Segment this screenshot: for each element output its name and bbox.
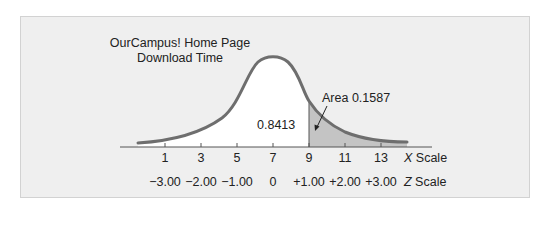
chart-title: OurCampus! Home Page Download Time (100, 36, 260, 65)
z-tick-label: +2.00 (325, 175, 365, 189)
z-tick-label: +1.00 (289, 175, 329, 189)
x-tick-label: 11 (325, 151, 365, 165)
z-scale-word: Scale (412, 175, 447, 189)
z-tick-label: −2.00 (181, 175, 221, 189)
x-tick-label: 13 (361, 151, 401, 165)
chart-title-line1: OurCampus! Home Page (100, 36, 260, 51)
x-tick-label: 9 (289, 151, 329, 165)
z-scale-name: Z Scale (404, 175, 446, 189)
left-area-value: 0.8413 (257, 118, 295, 132)
x-scale-name: X Scale (404, 151, 447, 165)
x-tick-label: 1 (145, 151, 185, 165)
chart-title-line2: Download Time (100, 51, 260, 66)
z-tick-label: +3.00 (361, 175, 401, 189)
right-area-label: Area 0.1587 (322, 91, 390, 105)
x-scale-word: Scale (412, 151, 447, 165)
z-tick-label: 0 (253, 175, 293, 189)
x-tick-label: 3 (181, 151, 221, 165)
x-tick-label: 5 (217, 151, 257, 165)
unshaded-area-region (138, 57, 309, 147)
x-tick-label: 7 (253, 151, 293, 165)
z-tick-label: −3.00 (145, 175, 185, 189)
z-scale-symbol: Z (404, 175, 412, 189)
z-tick-label: −1.00 (217, 175, 257, 189)
